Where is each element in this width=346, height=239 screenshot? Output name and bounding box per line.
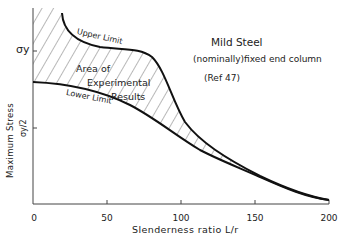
x-tick-0: 0 <box>31 213 37 223</box>
y-tick-sigma-half-text: σy/2 <box>19 119 28 137</box>
y-tick-sigma-y: σy <box>16 43 29 56</box>
chart-subtitle: (nominally)fixed end column <box>193 54 322 64</box>
x-tick-150: 150 <box>246 213 263 223</box>
chart-canvas <box>0 0 346 239</box>
y-tick-sigma-y-text: σy <box>16 43 29 56</box>
chart-title: Mild Steel <box>211 36 263 48</box>
area-label-line1: Area of <box>76 63 110 74</box>
x-tick-100: 100 <box>172 213 189 223</box>
y-tick-sigma-half: σy/2 <box>19 119 28 137</box>
chart-reference: (Ref 47) <box>204 73 240 83</box>
area-label-line3: Results <box>111 91 145 102</box>
lower-limit-curve <box>33 82 329 200</box>
x-tick-200: 200 <box>320 213 337 223</box>
experimental-area-hatch <box>33 8 329 200</box>
x-axis-label: Slenderness ratio L/r <box>132 224 239 235</box>
y-axis-label: Maximum Stress <box>5 103 15 178</box>
area-label-line2: Experimental <box>87 77 150 88</box>
x-ticks <box>107 200 329 204</box>
x-tick-50: 50 <box>101 213 112 223</box>
